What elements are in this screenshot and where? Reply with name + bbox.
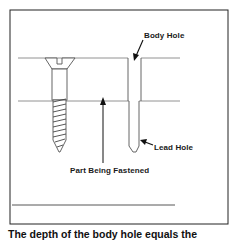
part-being-fastened-label: Part Being Fastened bbox=[70, 166, 149, 175]
screw-icon bbox=[45, 58, 75, 152]
lead-hole bbox=[129, 101, 139, 152]
figure-caption: The depth of the body hole equals the bbox=[8, 228, 197, 240]
part-being-fastened-arrow-icon bbox=[100, 97, 106, 163]
body-hole-label: Body Hole bbox=[144, 31, 184, 40]
figure-border bbox=[10, 10, 228, 224]
lead-hole-arrow-icon bbox=[140, 139, 153, 145]
screw-hole-diagram bbox=[0, 0, 236, 240]
lead-hole-label: Lead Hole bbox=[154, 143, 193, 152]
